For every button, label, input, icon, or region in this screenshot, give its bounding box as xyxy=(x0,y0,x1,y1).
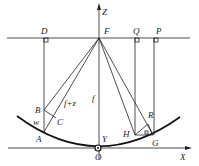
label-R: R xyxy=(147,110,154,120)
label-G: G xyxy=(152,138,159,148)
label-Y: Y xyxy=(102,134,108,144)
label-Q: Q xyxy=(133,26,140,36)
angle-mark-G xyxy=(145,131,148,134)
right-angle-D xyxy=(44,38,48,42)
label-O: O xyxy=(95,152,102,162)
label-w: w xyxy=(33,117,39,127)
x-axis-arrow-icon xyxy=(185,146,192,150)
line-FH xyxy=(99,38,135,135)
label-X: X xyxy=(179,152,186,162)
label-B: B xyxy=(35,105,41,115)
label-H: H xyxy=(122,129,130,139)
label-A: A xyxy=(35,134,42,144)
right-angle-Q xyxy=(135,38,139,42)
diagram: Z D F Q P B C f+z f w A Y O H R G X xyxy=(0,0,199,166)
line-HR xyxy=(135,124,148,135)
right-angle-P xyxy=(154,38,158,42)
line-RG xyxy=(148,124,153,135)
label-P: P xyxy=(155,26,162,36)
label-F: F xyxy=(103,26,110,36)
label-Z: Z xyxy=(102,7,108,17)
line-FG xyxy=(99,38,153,135)
z-axis-arrow-icon xyxy=(97,3,101,10)
origin-dot xyxy=(97,147,99,149)
label-f: f xyxy=(92,93,96,103)
label-C: C xyxy=(57,117,64,127)
line-FA xyxy=(44,38,99,132)
label-f-plus-z: f+z xyxy=(64,98,77,108)
label-D: D xyxy=(40,26,48,36)
